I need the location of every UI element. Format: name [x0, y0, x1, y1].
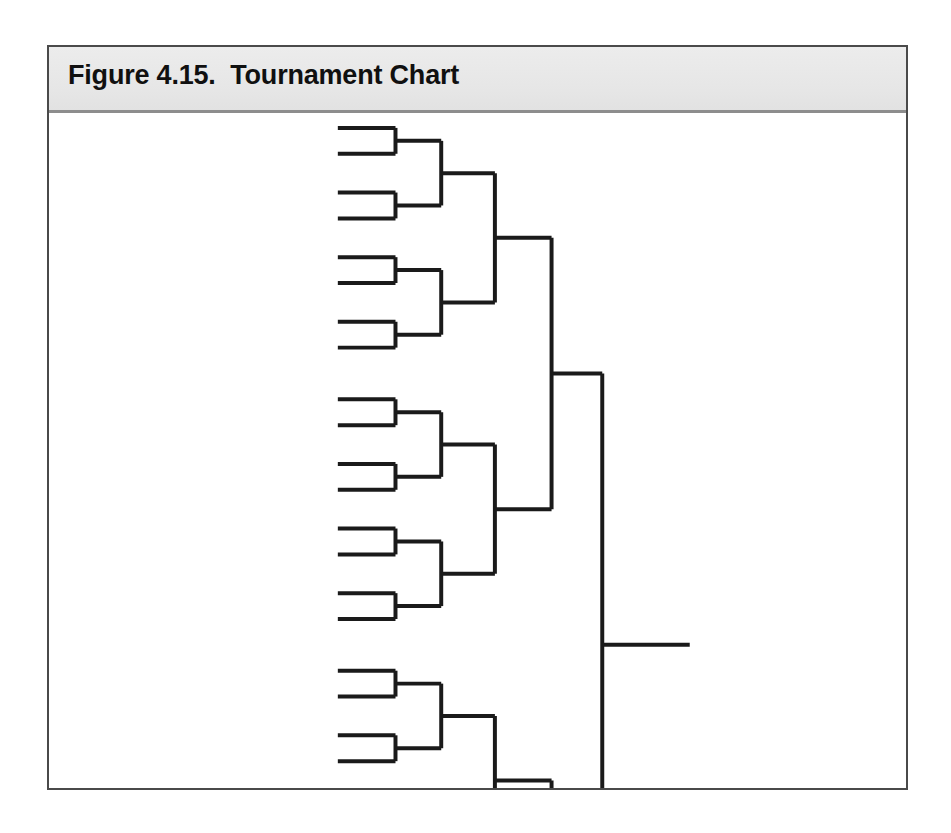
tournament-bracket-svg: [49, 116, 906, 788]
figure-caption-band: Figure 4.15. Tournament Chart: [49, 47, 906, 113]
figure-caption: Figure 4.15. Tournament Chart: [68, 60, 459, 91]
figure-frame: Figure 4.15. Tournament Chart: [47, 45, 908, 790]
bracket-diagram-area: [49, 116, 906, 788]
bracket-lines-group: [338, 128, 690, 788]
